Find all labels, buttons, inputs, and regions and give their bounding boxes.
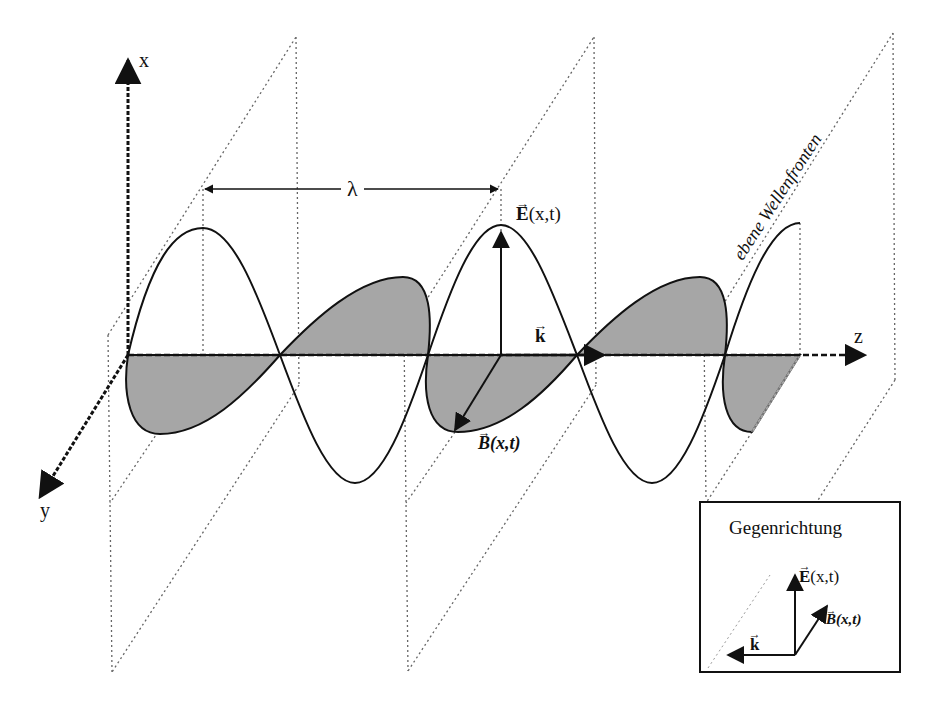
z-axis-label: z [854,326,863,346]
b-field-label: B(x,t) [478,434,521,452]
y-axis [40,355,128,497]
inset-e-label: E(x,t) [799,568,839,585]
y-axis-label: y [40,500,50,520]
inset-title: Gegenrichtung [729,518,842,537]
inset-k-label: k [750,636,759,653]
e-field-label: E(x,t) [516,204,561,223]
x-axis-label: x [139,50,149,70]
wavefront-plane-3 [704,33,895,575]
em-wave-diagram [0,0,925,701]
inset-b-label: B(x,t) [826,612,861,627]
k-vector-label: k [535,326,546,345]
wavelength-label: λ [341,178,364,200]
